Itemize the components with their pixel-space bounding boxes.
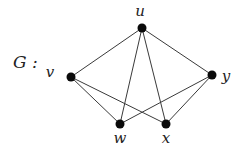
edge-u-x [142,28,166,124]
edge-u-w [120,28,142,124]
graph-diagram: G : uvywx [0,0,244,152]
node-label-v: v [46,63,55,81]
node-label-u: u [135,2,145,20]
node-label-w: w [114,129,127,147]
node-v [67,73,76,82]
edge-v-x [71,77,166,124]
node-y [208,71,217,80]
node-w [116,120,125,129]
node-label-x: x [162,129,171,147]
edge-v-w [71,77,120,124]
edge-y-x [166,75,212,124]
node-x [162,120,171,129]
edges [71,28,212,124]
graph-name-label: G : [13,52,38,72]
edge-y-w [120,75,212,124]
node-u [138,24,147,33]
edge-u-v [71,28,142,77]
node-label-y: y [221,67,231,85]
